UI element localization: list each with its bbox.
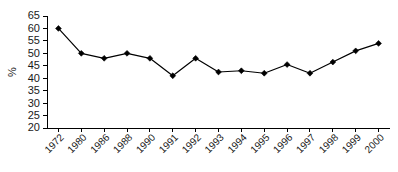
y-tick-label: 40 <box>28 72 40 84</box>
x-tick-label: 1997 <box>294 131 318 155</box>
data-point-marker <box>330 59 336 65</box>
x-tick-label: 1998 <box>317 131 341 155</box>
y-tick-label: 65 <box>28 9 40 21</box>
y-tick-label: 50 <box>28 47 40 59</box>
x-tick-label: 2000 <box>362 131 386 155</box>
data-point-marker <box>216 69 222 75</box>
y-tick-label: 20 <box>28 121 40 133</box>
y-tick-label: 35 <box>28 84 40 96</box>
y-tick-label: 55 <box>28 34 40 46</box>
line-chart: 65605550454035302520%1972198019861988199… <box>0 0 398 172</box>
y-tick-label: 60 <box>28 22 40 34</box>
x-tick-label: 1991 <box>157 131 181 155</box>
x-tick-label: 1993 <box>202 131 226 155</box>
chart-plot-area: 65605550454035302520%1972198019861988199… <box>0 0 398 172</box>
x-tick-label: 1994 <box>225 131 249 155</box>
x-tick-label: 1990 <box>134 131 158 155</box>
x-tick-label: 1980 <box>65 131 89 155</box>
x-tick-label: 1972 <box>42 131 66 155</box>
y-tick-label: 30 <box>28 97 40 109</box>
y-tick-label: 25 <box>28 109 40 121</box>
data-point-marker <box>376 40 382 46</box>
data-point-marker <box>101 55 107 61</box>
x-tick-label: 1999 <box>340 131 364 155</box>
y-tick-label: 45 <box>28 59 40 71</box>
data-point-marker <box>307 70 313 76</box>
series-line <box>58 28 378 75</box>
data-point-marker <box>238 68 244 74</box>
x-tick-label: 1996 <box>271 131 295 155</box>
x-tick-label: 1988 <box>111 131 135 155</box>
x-tick-label: 1986 <box>88 131 112 155</box>
data-point-marker <box>261 70 267 76</box>
y-axis-label: % <box>6 67 18 77</box>
x-tick-label: 1992 <box>180 131 204 155</box>
data-point-marker <box>353 48 359 54</box>
data-point-marker <box>284 62 290 68</box>
data-point-marker <box>124 50 130 56</box>
x-tick-label: 1995 <box>248 131 272 155</box>
